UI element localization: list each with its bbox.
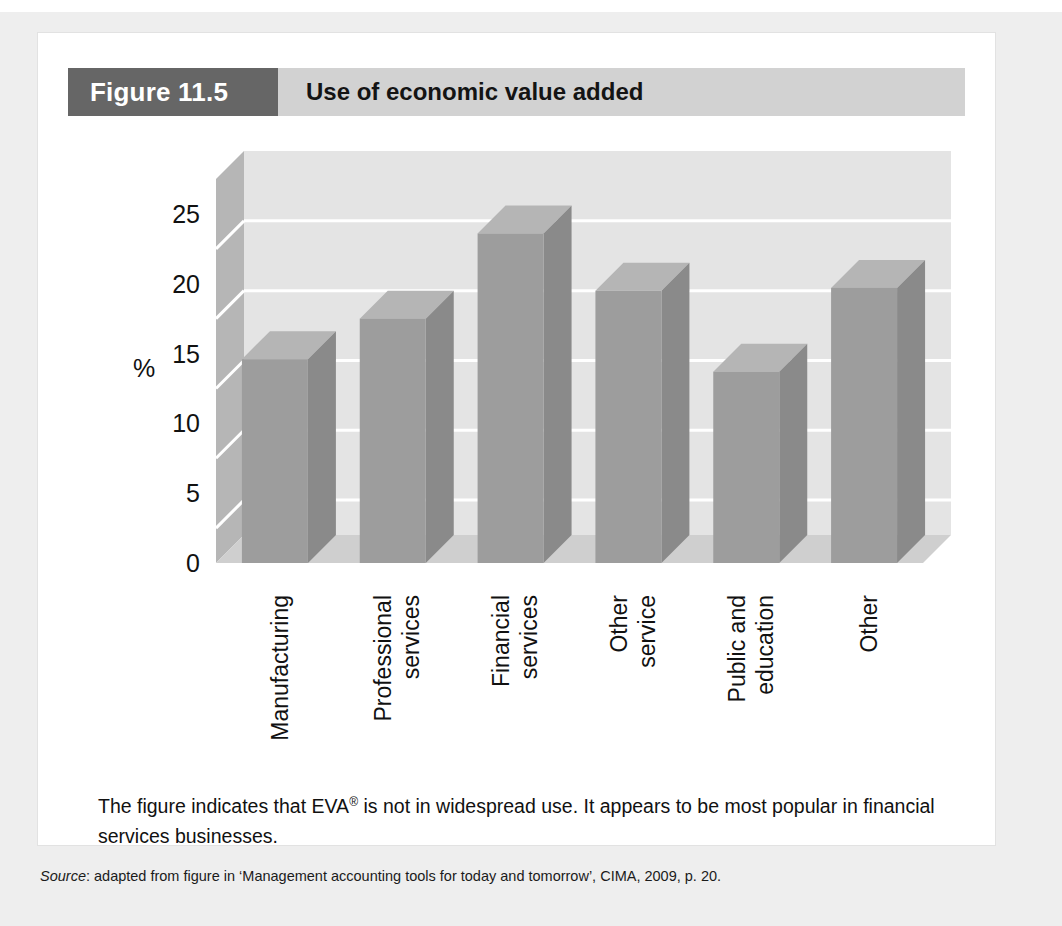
x-category-label: Other <box>856 595 882 653</box>
y-tick-label: 0 <box>186 549 200 577</box>
bar-side-face <box>426 291 454 563</box>
bar-3d <box>478 205 572 563</box>
x-category-label: service <box>634 595 660 668</box>
caption-text-before: The figure indicates that EVA <box>98 795 349 817</box>
bar-side-face <box>661 263 689 563</box>
y-tick-label: 20 <box>172 270 200 298</box>
bar-3d <box>360 291 454 563</box>
bar-front-face <box>242 359 308 563</box>
x-category-label: Professional <box>370 595 396 722</box>
y-tick-label: 25 <box>172 200 200 228</box>
y-axis-title: % <box>133 354 155 382</box>
bar-front-face <box>360 319 426 563</box>
bar-3d <box>595 263 689 563</box>
y-axis-label: % <box>133 354 155 382</box>
bar-side-face <box>779 344 807 563</box>
y-tick-label: 5 <box>186 479 200 507</box>
left-wall <box>216 151 244 563</box>
y-axis-tick-labels: 0510152025 <box>172 200 200 577</box>
x-category-label: services <box>516 595 542 679</box>
bar-side-face <box>544 205 572 563</box>
figure-source: Source: adapted from figure in ‘Manageme… <box>40 868 1020 884</box>
x-category-label: Public and <box>724 595 750 702</box>
figure-title: Use of economic value added <box>278 68 965 116</box>
bar-side-face <box>308 331 336 563</box>
bar-front-face <box>478 233 544 563</box>
x-category-label: Manufacturing <box>267 595 293 741</box>
bar-3d <box>713 344 807 563</box>
bar-chart-3d: 0510152025 % ManufacturingProfessionalse… <box>68 116 965 746</box>
bar-3d <box>242 331 336 563</box>
x-category-label: Other <box>606 595 632 653</box>
source-text: : adapted from figure in ‘Management acc… <box>86 868 721 884</box>
bar-3d <box>831 260 925 563</box>
y-tick-label: 15 <box>172 340 200 368</box>
bar-front-face <box>595 291 661 563</box>
x-axis-category-labels: ManufacturingProfessionalservicesFinanci… <box>267 595 882 741</box>
registered-trademark-icon: ® <box>349 795 358 809</box>
bar-front-face <box>713 372 779 563</box>
figure-caption: The figure indicates that EVA® is not in… <box>98 791 978 851</box>
x-category-label: services <box>398 595 424 679</box>
figure-card: Figure 11.5 Use of economic value added … <box>38 33 995 845</box>
source-label: Source <box>40 868 86 884</box>
figure-number-tag: Figure 11.5 <box>68 68 278 116</box>
page-top-strip <box>0 0 1062 12</box>
x-category-label: education <box>752 595 778 695</box>
chart-area: 0510152025 % ManufacturingProfessionalse… <box>68 116 965 746</box>
figure-header: Figure 11.5 Use of economic value added <box>68 68 965 116</box>
y-tick-label: 10 <box>172 409 200 437</box>
bar-side-face <box>897 260 925 563</box>
page-background: Figure 11.5 Use of economic value added … <box>0 0 1062 926</box>
x-category-label: Financial <box>488 595 514 687</box>
bar-front-face <box>831 288 897 563</box>
